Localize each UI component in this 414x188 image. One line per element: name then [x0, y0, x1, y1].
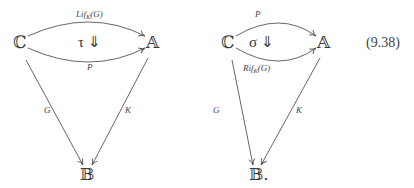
diagram-right: ℂ 𝔸 𝔹. P σ ⇓ RifK(G) G K	[213, 9, 331, 184]
two-cell-sigma: σ ⇓	[249, 34, 274, 50]
label-K-right: K	[295, 105, 303, 115]
label-P-left: P	[86, 62, 93, 72]
label-rif-right: RifK(G)	[242, 63, 270, 74]
equation-number: (9.38)	[366, 35, 400, 51]
arrow-K-left	[92, 58, 148, 165]
two-cell-tau: τ ⇓	[78, 34, 101, 50]
label-P-right: P	[254, 9, 261, 19]
label-G-left: G	[44, 105, 51, 115]
object-B-right: 𝔹.	[249, 164, 269, 184]
arrow-G-right	[232, 60, 253, 165]
label-lif-left: LifK(G)	[75, 9, 103, 20]
label-K-left: K	[124, 105, 132, 115]
object-A-left: 𝔸	[145, 32, 160, 52]
arrow-K-right	[261, 58, 320, 165]
label-G-right: G	[213, 105, 220, 115]
commutative-diagrams: ℂ 𝔸 𝔹 LifK(G) τ ⇓ P G K ℂ 𝔸 𝔹. P σ ⇓ Rif…	[0, 0, 414, 188]
object-C-right: ℂ	[221, 32, 235, 52]
object-A-right: 𝔸	[316, 32, 331, 52]
object-B-left: 𝔹	[80, 164, 94, 184]
arrow-G-left	[26, 60, 83, 165]
arrow-bottom-curve-right	[236, 48, 316, 61]
arrow-top-right	[236, 23, 316, 36]
arrow-bottom-curve-left	[28, 48, 145, 62]
object-C-left: ℂ	[13, 32, 27, 52]
diagram-left: ℂ 𝔸 𝔹 LifK(G) τ ⇓ P G K	[13, 9, 160, 184]
